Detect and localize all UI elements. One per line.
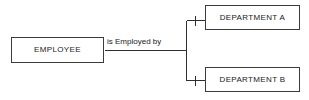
entity-box-department-b[interactable]: DEPARTMENT B [205, 67, 300, 92]
diagram-canvas: EMPLOYEE is Employed by DEPARTMENT A DEP… [0, 0, 309, 100]
entity-box-employee[interactable]: EMPLOYEE [11, 37, 104, 63]
entity-box-department-a[interactable]: DEPARTMENT A [205, 5, 300, 30]
relationship-label-is-employed-by: is Employed by [107, 38, 161, 46]
entity-label-department-b: DEPARTMENT B [220, 76, 286, 84]
entity-label-employee: EMPLOYEE [34, 46, 81, 54]
entity-label-department-a: DEPARTMENT A [220, 14, 286, 22]
